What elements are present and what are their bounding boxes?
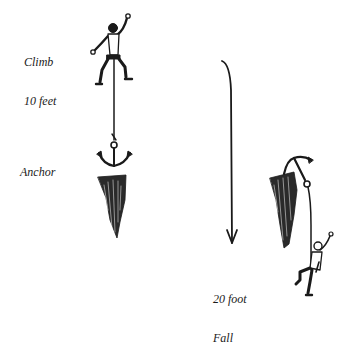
rock-left-icon [98, 175, 126, 238]
fall-arrow-icon [222, 61, 237, 243]
rock-right-icon [270, 172, 297, 248]
climber-above-anchor-icon [91, 14, 132, 140]
anchor-left-icon [97, 134, 132, 166]
fall-label-line2: Fall [213, 332, 247, 345]
climber-fallen-icon [296, 232, 333, 295]
